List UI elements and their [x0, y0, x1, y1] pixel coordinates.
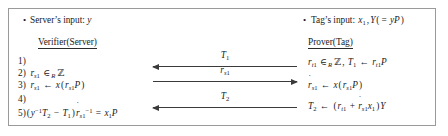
verifier-step-4: 4) — [18, 93, 26, 105]
arrow-head-left-icon — [152, 105, 159, 111]
prover-step-1: rt1 ∈R ℤ, T1 ← rt1P — [308, 56, 387, 71]
arrow-head-left-icon — [152, 64, 159, 70]
verifier-step-3-number: 3) — [18, 79, 26, 91]
verifier-step-3-formula: rs1 ← x(rs1P) — [26, 80, 86, 90]
bullet-icon: • — [23, 15, 30, 26]
verifier-step-2-number: 2) — [18, 67, 26, 79]
arrow-head-right-icon — [291, 79, 298, 85]
server-input-bullet-line: •Server’s input: y — [23, 15, 91, 26]
prover-step-3-formula: T2 ← (rt1 + rs1x1)Y — [308, 101, 385, 111]
verifier-step-5-number: 5) — [18, 107, 26, 119]
tag-input-bullet-line: •Tag’s input: x1,Y(= yP) — [303, 15, 405, 28]
protocol-figure-box: •Server’s input: y •Tag’s input: x1,Y(= … — [8, 8, 436, 126]
message-1-label: T1 — [221, 50, 229, 63]
verifier-step-1: 1) — [18, 55, 26, 67]
arrow-shaft — [153, 81, 297, 82]
arrow-shaft — [153, 107, 297, 108]
verifier-step-4-number: 4) — [18, 93, 26, 105]
verifier-step-3: 3) rs1 ← x(rs1P) — [18, 79, 85, 94]
prover-step-2: rs1 ← x(rs1P) — [308, 79, 363, 94]
message-2-label: rs1 — [220, 65, 230, 78]
server-input-text: Server’s input: y — [30, 15, 91, 25]
prover-step-3: T2 ← (rt1 + rs1x1)Y — [308, 100, 385, 115]
tag-input-text: Tag’s input: x1,Y(= yP) — [310, 15, 405, 25]
verifier-heading: Verifier(Server) — [38, 37, 97, 49]
verifier-step-5: 5)(y−1T2 − T1)rs1−1 = x1P — [18, 105, 118, 122]
message-3-label: T2 — [221, 91, 229, 104]
prover-heading: Prover(Tag) — [308, 37, 353, 49]
prover-step-1-formula: rt1 ∈R ℤ, T1 ← rt1P — [308, 57, 387, 67]
verifier-step-5-formula: (y−1T2 − T1)rs1−1 = x1P — [26, 108, 118, 118]
prover-step-2-formula: rs1 ← x(rs1P) — [308, 80, 363, 90]
bullet-icon: • — [303, 15, 310, 26]
verifier-step-1-number: 1) — [18, 55, 26, 67]
